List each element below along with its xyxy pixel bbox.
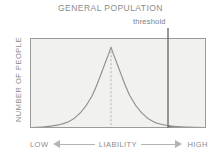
distribution-curve xyxy=(31,48,205,128)
x-axis-low-label: LOW xyxy=(30,140,48,149)
y-axis-label: NUMBER OF PEOPLE xyxy=(14,32,23,128)
x-axis-center-group: LIABILITY xyxy=(48,140,187,149)
x-axis-high-label: HIGH xyxy=(187,140,208,149)
x-axis-row: LOW LIABILITY HIGH xyxy=(30,136,208,152)
right-arrow-icon xyxy=(141,140,182,148)
x-axis-label: LIABILITY xyxy=(99,140,137,149)
left-arrow-icon xyxy=(53,140,94,148)
tail-shaded-region xyxy=(31,48,205,128)
liability-threshold-figure: GENERAL POPULATION threshold NUMBER OF P… xyxy=(0,0,221,160)
